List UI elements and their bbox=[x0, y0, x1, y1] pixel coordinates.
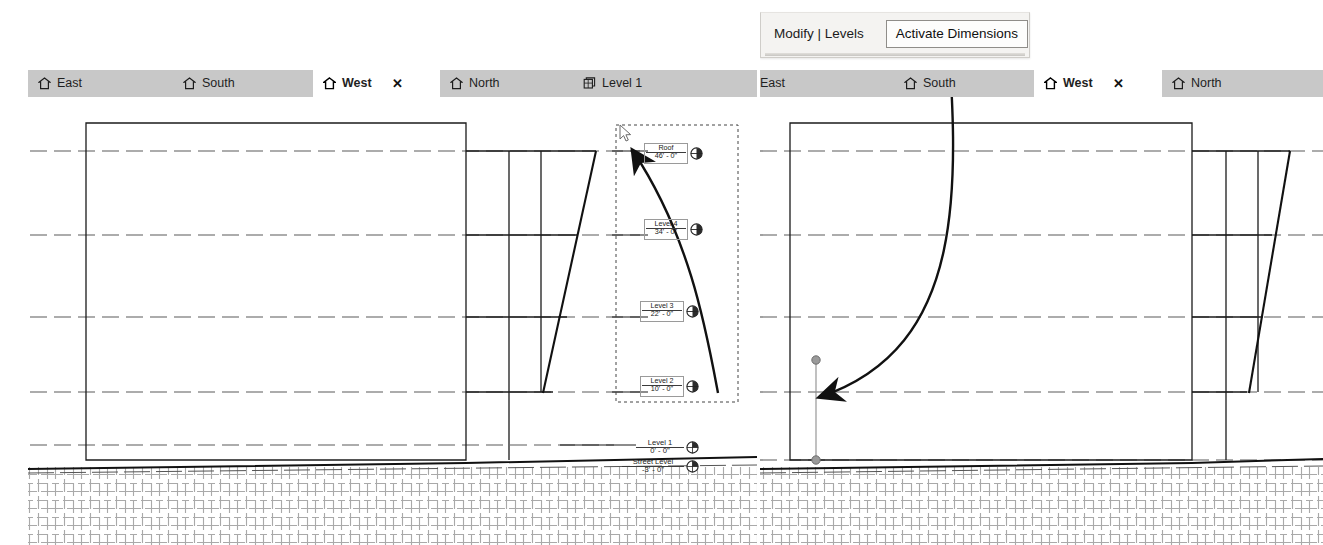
level-elevation: 10' - 0" bbox=[640, 385, 684, 393]
tab-north[interactable]: North bbox=[440, 70, 573, 97]
contextual-ribbon: Modify | Levels Activate Dimensions bbox=[760, 12, 1030, 58]
tab-west[interactable]: West ✕ bbox=[1034, 70, 1162, 97]
tab-label: South bbox=[202, 70, 235, 97]
elevation-icon bbox=[904, 77, 917, 90]
close-icon[interactable]: ✕ bbox=[392, 70, 403, 97]
level-bubble-icon[interactable] bbox=[686, 380, 699, 393]
tab-label: South bbox=[923, 70, 956, 97]
level-head-level-2[interactable]: Level 2 10' - 0" bbox=[640, 376, 698, 398]
elevation-icon bbox=[450, 77, 463, 90]
right-screenshot-panel: Modify | Levels Activate Dimensions East… bbox=[760, 0, 1323, 545]
tab-label: North bbox=[1191, 70, 1222, 97]
elevation-drawing-right[interactable] bbox=[760, 97, 1323, 545]
floor-plan-icon bbox=[583, 77, 596, 90]
tab-south[interactable]: South bbox=[894, 70, 1034, 97]
level-head-street-level[interactable]: Street Level -3' - 0" bbox=[622, 457, 698, 477]
elevation-icon bbox=[1044, 77, 1057, 90]
tab-south[interactable]: South bbox=[173, 70, 313, 97]
tab-label: West bbox=[342, 70, 372, 97]
tab-label: East bbox=[760, 70, 785, 97]
tab-label: West bbox=[1063, 70, 1093, 97]
tab-label: North bbox=[469, 70, 500, 97]
level-elevation: 46' - 0" bbox=[644, 152, 688, 160]
application-screenshot: East South West ✕ bbox=[0, 0, 1323, 545]
level-bubble-icon[interactable] bbox=[690, 223, 703, 236]
view-tab-bar-left[interactable]: East South West ✕ bbox=[28, 70, 757, 97]
level-head-roof[interactable]: Roof 46' - 0" bbox=[644, 143, 702, 165]
ribbon-bottom-edge bbox=[765, 53, 1025, 56]
level-head-level-1[interactable]: Level 1 0' - 0" bbox=[636, 438, 698, 458]
level-bubble-icon[interactable] bbox=[686, 460, 699, 473]
level-head-level-3[interactable]: Level 3 22' - 0" bbox=[640, 301, 698, 323]
level-bubble-icon[interactable] bbox=[686, 305, 699, 318]
level-bubble-icon[interactable] bbox=[690, 147, 703, 160]
tab-west[interactable]: West ✕ bbox=[313, 70, 440, 97]
elevation-icon bbox=[183, 77, 196, 90]
level-head-level-4[interactable]: Level 4 34' - 0" bbox=[644, 219, 702, 241]
close-icon[interactable]: ✕ bbox=[1113, 70, 1124, 97]
faint-artifact-text bbox=[22, 34, 752, 56]
level-elevation: 0' - 0" bbox=[636, 447, 684, 455]
tab-level-1[interactable]: Level 1 bbox=[573, 70, 713, 97]
elevation-icon bbox=[38, 77, 51, 90]
elevation-icon bbox=[1172, 77, 1185, 90]
tab-label: East bbox=[57, 70, 82, 97]
level-bubble-icon[interactable] bbox=[686, 441, 699, 454]
level-elevation: -3' - 0" bbox=[622, 466, 684, 474]
level-elevation: 34' - 0" bbox=[644, 228, 688, 236]
ribbon-context-label: Modify | Levels bbox=[764, 19, 877, 49]
view-tab-bar-right[interactable]: East South West ✕ bbox=[760, 70, 1323, 97]
activate-dimensions-button[interactable]: Activate Dimensions bbox=[886, 20, 1028, 48]
left-screenshot-panel: East South West ✕ bbox=[0, 0, 757, 545]
tab-label: Level 1 bbox=[602, 70, 642, 97]
tab-east[interactable]: East bbox=[760, 70, 894, 97]
tab-east[interactable]: East bbox=[28, 70, 173, 97]
elevation-icon bbox=[323, 77, 336, 90]
tab-north[interactable]: North bbox=[1162, 70, 1302, 97]
level-elevation: 22' - 0" bbox=[640, 310, 684, 318]
